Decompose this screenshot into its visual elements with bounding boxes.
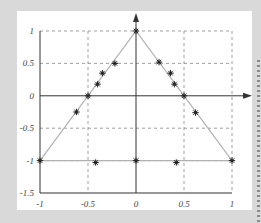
y-tick-label: 1 bbox=[30, 26, 35, 36]
chart: -1-0.500.5110.50-0.5-1-1.5 bbox=[0, 0, 261, 223]
asterisk-marker-icon bbox=[192, 109, 198, 115]
asterisk-marker-icon bbox=[73, 109, 79, 115]
asterisk-marker-icon bbox=[85, 93, 91, 99]
y-tick-label: -1 bbox=[27, 156, 35, 166]
asterisk-marker-icon bbox=[37, 157, 43, 163]
asterisk-marker-icon bbox=[181, 93, 187, 99]
asterisk-marker-icon bbox=[171, 81, 177, 87]
y-tick-label: 0 bbox=[30, 91, 35, 101]
y-axis-arrow-icon bbox=[133, 13, 139, 22]
x-tick-label: -1 bbox=[36, 199, 44, 209]
asterisk-marker-icon bbox=[173, 159, 179, 165]
asterisk-marker-icon bbox=[156, 59, 162, 65]
x-axis-arrow-icon bbox=[243, 93, 252, 99]
asterisk-marker-icon bbox=[112, 60, 118, 66]
asterisk-marker-icon bbox=[133, 28, 139, 34]
asterisk-marker-icon bbox=[94, 81, 100, 87]
y-tick-label: -0.5 bbox=[20, 123, 35, 133]
x-tick-label: 1 bbox=[230, 199, 235, 209]
y-tick-label: 0.5 bbox=[23, 58, 35, 68]
x-tick-label: 0 bbox=[134, 199, 139, 209]
asterisk-marker-icon bbox=[167, 70, 173, 76]
x-tick-label: -0.5 bbox=[81, 199, 96, 209]
asterisk-marker-icon bbox=[92, 159, 98, 165]
x-tick-label: 0.5 bbox=[178, 199, 190, 209]
asterisk-marker-icon bbox=[133, 157, 139, 163]
asterisk-marker-icon bbox=[229, 157, 235, 163]
asterisk-marker-icon bbox=[99, 70, 105, 76]
y-tick-label: -1.5 bbox=[20, 188, 35, 198]
